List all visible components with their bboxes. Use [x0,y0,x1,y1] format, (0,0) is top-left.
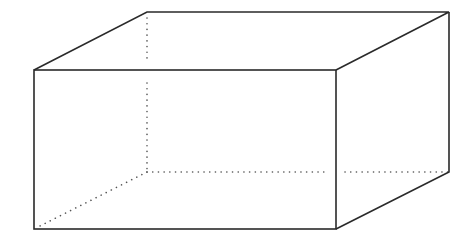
right-face-edges [336,12,449,229]
front-face [34,70,336,229]
rectangular-prism-diagram [0,0,471,239]
top-face-edges [34,12,449,70]
visible-edges [34,12,449,229]
hidden-edge-depth-bottom-left [38,172,147,227]
hidden-edges [38,18,449,227]
